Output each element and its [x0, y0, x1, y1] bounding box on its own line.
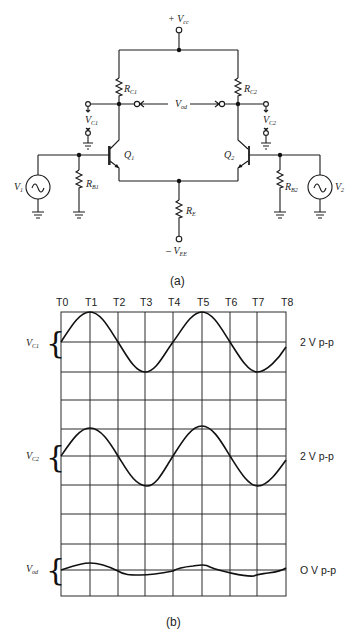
amplitude-vc1: 2 V p-p [300, 336, 334, 348]
svg-text:RC2: RC2 [243, 83, 257, 95]
label-vc1: VC1 [26, 337, 39, 349]
svg-text:RC1: RC1 [123, 83, 137, 95]
circuit-schematic: + Vcc RC1 RC2 Vod VC1 VC2 [14, 13, 344, 288]
svg-text:V2: V2 [335, 181, 344, 193]
svg-text:T0: T0 [56, 296, 68, 308]
svg-text:Q2: Q2 [224, 149, 234, 161]
waveform-chart: T0 T1 T2 T3 T4 T5 T6 T7 T8 VC1 { 2 V p-p… [26, 296, 336, 629]
svg-text:T3: T3 [140, 296, 152, 308]
svg-text:T4: T4 [168, 296, 180, 308]
ground-icon [83, 136, 93, 149]
svg-text:V1: V1 [14, 181, 23, 193]
svg-text:RE: RE [185, 205, 196, 217]
transistor-q1-icon [109, 104, 119, 181]
ac-source-v2-icon [308, 175, 332, 218]
svg-text:T7: T7 [252, 296, 264, 308]
resistor-re-icon [176, 200, 182, 236]
amplitude-vod: O V p-p [300, 564, 336, 576]
svg-text:RB2: RB2 [284, 181, 298, 193]
vcc-label: + Vcc [168, 13, 189, 25]
brace-icon: { [46, 325, 65, 360]
brace-icon: { [46, 552, 65, 587]
label-vod: Vod [26, 563, 39, 575]
svg-text:VC2: VC2 [263, 114, 276, 126]
differential-amplifier-figure: + Vcc RC1 RC2 Vod VC1 VC2 [0, 0, 354, 638]
vcc-terminal [176, 27, 182, 33]
amplitude-vc2: 2 V p-p [300, 450, 334, 462]
vee-terminal [176, 236, 182, 242]
svg-text:Q1: Q1 [124, 149, 134, 161]
resistor-rc2-icon [235, 78, 241, 104]
caption-a: (a) [170, 274, 185, 288]
vod-label: Vod [175, 98, 188, 110]
svg-text:RB1: RB1 [85, 178, 99, 190]
svg-text:T8: T8 [281, 296, 293, 308]
brace-icon: { [46, 439, 65, 474]
svg-text:T5: T5 [197, 296, 209, 308]
svg-text:T1: T1 [85, 296, 97, 308]
resistor-rb2-icon [274, 170, 286, 218]
time-axis-labels: T0 T1 T2 T3 T4 T5 T6 T7 T8 [56, 296, 293, 308]
svg-text:VC1: VC1 [85, 114, 98, 126]
svg-text:T6: T6 [225, 296, 237, 308]
vee-label: – VEE [165, 245, 187, 257]
caption-b: (b) [166, 615, 181, 629]
resistor-rb1-icon [73, 170, 85, 218]
transistor-q2-icon [238, 104, 249, 181]
label-vc2: VC2 [26, 450, 39, 462]
ac-source-v1-icon [26, 175, 50, 218]
resistor-rc1-icon [116, 78, 122, 104]
svg-text:T2: T2 [113, 296, 125, 308]
ground-icon [261, 136, 271, 149]
